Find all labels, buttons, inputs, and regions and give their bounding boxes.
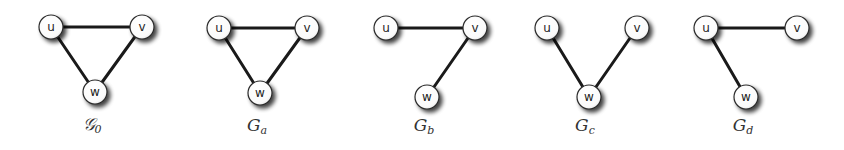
graph-g0: uvw𝒢0 [39, 15, 154, 136]
node-label: w [741, 90, 751, 104]
node-v: v [130, 15, 154, 39]
node-label: w [422, 90, 432, 104]
graph-label: Gc [575, 115, 595, 137]
node-label: w [584, 90, 594, 104]
node-u: u [207, 16, 231, 40]
node-label: u [215, 21, 223, 35]
graph-gd: uvwGd [694, 16, 809, 137]
node-v: v [625, 16, 649, 40]
node-u: u [374, 16, 398, 40]
node-label: u [702, 21, 710, 35]
node-label: w [255, 86, 265, 100]
graph-label: Gd [733, 115, 754, 137]
node-label: v [138, 20, 145, 34]
node-v: v [295, 16, 319, 40]
node-label: w [90, 85, 100, 99]
node-v: v [463, 16, 487, 40]
graph-ga: uvwGa [207, 16, 319, 137]
graph-gc: uvwGc [535, 16, 649, 137]
node-label: v [303, 21, 310, 35]
graph-label: 𝒢0 [83, 114, 102, 136]
edge-v-w [589, 28, 637, 97]
node-label: u [382, 21, 390, 35]
edge-v-w [427, 28, 475, 97]
node-w: w [248, 81, 272, 105]
graph-gb: uvwGb [374, 16, 487, 137]
node-label: v [633, 21, 640, 35]
node-u: u [39, 15, 63, 39]
graph-label: Ga [247, 115, 267, 137]
node-u: u [694, 16, 718, 40]
node-label: v [793, 21, 800, 35]
node-v: v [785, 16, 809, 40]
graph-label: Gb [414, 115, 435, 137]
node-label: v [471, 21, 478, 35]
node-label: u [543, 21, 551, 35]
node-label: u [47, 20, 55, 34]
node-w: w [577, 85, 601, 109]
node-u: u [535, 16, 559, 40]
node-w: w [734, 85, 758, 109]
graph-figure: uvw𝒢0uvwGauvwGbuvwGcuvwGd [0, 0, 844, 150]
node-w: w [415, 85, 439, 109]
node-w: w [83, 80, 107, 104]
graphs-root: uvw𝒢0uvwGauvwGbuvwGcuvwGd [39, 15, 809, 137]
